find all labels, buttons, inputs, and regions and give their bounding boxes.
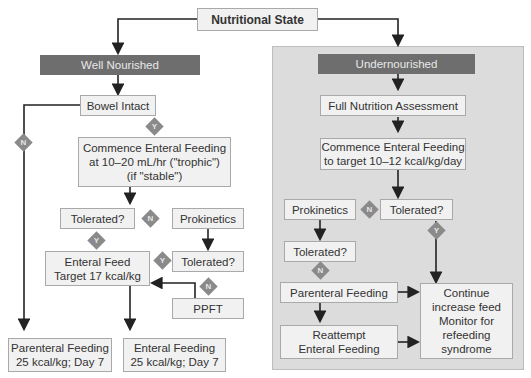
tolerated-right-1: Tolerated? (380, 199, 453, 220)
commence-trophic-box: Commence Enteral Feeding at 10–20 mL/hr … (78, 137, 231, 187)
tolerated-left-1: Tolerated? (60, 208, 135, 229)
tolerated-right-2: Tolerated? (284, 241, 356, 262)
parenteral-day7-box: Parenteral Feeding 25 kcal/kg; Day 7 (8, 338, 112, 372)
well-nourished-header: Well Nourished (40, 55, 200, 75)
undernourished-header: Undernourished (318, 54, 475, 74)
ppft-box: PPFT (172, 298, 244, 319)
prokinetics-right: Prokinetics (284, 199, 356, 220)
commence-target-box: Commence Enteral Feeding to target 10–12… (320, 138, 466, 170)
enteral-target-box: Enteral Feed Target 17 kcal/kg (45, 251, 150, 286)
continue-box: Continue increase feed Monitor for refee… (420, 283, 513, 359)
bowel-intact-box: Bowel Intact (80, 95, 156, 116)
enteral-day7-box: Enteral Feeding 25 kcal/kg; Day 7 (123, 338, 226, 372)
nutritional-state-box: Nutritional State (197, 8, 318, 31)
prokinetics-left: Prokinetics (172, 208, 244, 229)
parenteral-right-box: Parenteral Feeding (280, 282, 398, 303)
reattempt-box: Reattempt Enteral Feeding (280, 325, 398, 359)
full-assessment-box: Full Nutrition Assessment (320, 95, 466, 116)
tolerated-left-2: Tolerated? (172, 251, 244, 272)
